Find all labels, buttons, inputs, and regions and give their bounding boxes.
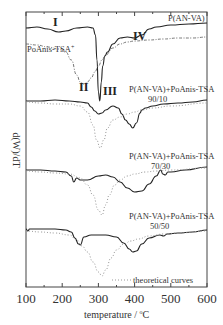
- curve-theoretical-90-10: [26, 102, 207, 148]
- y-axis-title: d(W)/dT: [10, 133, 22, 168]
- curve-p-an-va-poanis-tsa-70-30: [26, 167, 207, 192]
- annotation-II: II: [79, 80, 89, 94]
- label-poanis-tsa: PoAnis-TSA+: [27, 44, 75, 54]
- curve-theoretical-50-50: [26, 231, 207, 276]
- curve-p-an-va-poanis-tsa-50-50: [26, 229, 207, 252]
- x-tick-label: 400: [125, 291, 145, 306]
- dtg-chart: 100200300400500600 P(AN-VA) PoAnis-TSA+ …: [0, 0, 223, 325]
- x-tick-label: 200: [52, 291, 72, 306]
- x-tick-label: 300: [89, 291, 109, 306]
- label-ratio-90-10: 90/10: [148, 94, 167, 104]
- annotation-I: I: [53, 15, 58, 29]
- annotation-IV: IV: [133, 29, 147, 43]
- label-ratio-50-50: 50/50: [150, 221, 169, 231]
- label-blend-50-50: P(AN-VA)+PoAnis-TSA: [129, 211, 215, 221]
- label-blend-90-10: P(AN-VA)+PoAnis-TSA: [129, 84, 215, 94]
- x-axis-tick-labels: 100200300400500600: [16, 291, 217, 306]
- label-ratio-70-30: 70/30: [151, 161, 170, 171]
- curve-theoretical-70-30: [26, 168, 207, 215]
- label-blend-70-30: P(AN-VA)+PoAnis-TSA: [129, 151, 215, 161]
- x-tick-label: 100: [16, 291, 36, 306]
- x-tick-label: 500: [161, 291, 181, 306]
- annotation-III: III: [103, 84, 117, 98]
- x-tick-label: 600: [197, 291, 217, 306]
- legend-theoretical-curves: theoretical curves: [133, 275, 193, 285]
- label-pan-va: P(AN-VA): [168, 13, 205, 23]
- x-axis-title: temperature / oC: [84, 309, 150, 320]
- curves: [26, 23, 207, 276]
